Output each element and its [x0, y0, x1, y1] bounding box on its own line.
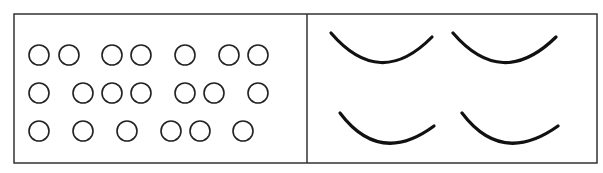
- circle-shape: [190, 121, 210, 141]
- outer-frame: [14, 14, 597, 163]
- circle-shape: [131, 45, 151, 65]
- arc-shape: [340, 113, 434, 143]
- arc-shape: [331, 33, 432, 63]
- circle-shape: [233, 121, 253, 141]
- figure-canvas: [0, 0, 603, 173]
- right-panel-arcs: [331, 33, 558, 143]
- circle-shape: [131, 83, 151, 103]
- circle-shape: [219, 45, 239, 65]
- circle-shape: [248, 45, 268, 65]
- circle-shape: [73, 83, 93, 103]
- circle-shape: [248, 83, 268, 103]
- circle-shape: [175, 45, 195, 65]
- circle-shape: [161, 121, 181, 141]
- circle-shape: [59, 45, 79, 65]
- circle-shape: [175, 83, 195, 103]
- circle-shape: [73, 121, 93, 141]
- left-panel-circles: [29, 45, 268, 141]
- circle-shape: [29, 45, 49, 65]
- circle-shape: [102, 45, 122, 65]
- arc-shape: [462, 113, 558, 143]
- arc-shape: [453, 33, 556, 63]
- circle-shape: [102, 83, 122, 103]
- circle-shape: [117, 121, 137, 141]
- circle-shape: [204, 83, 224, 103]
- circle-shape: [29, 83, 49, 103]
- circle-shape: [29, 121, 49, 141]
